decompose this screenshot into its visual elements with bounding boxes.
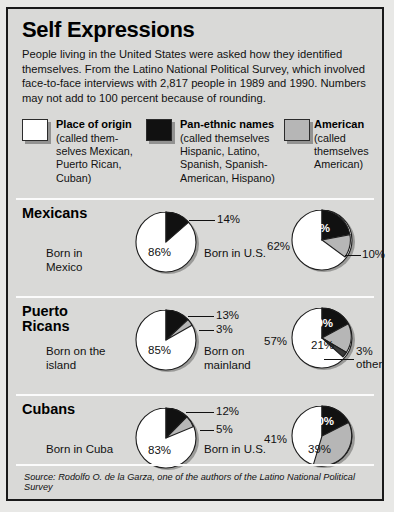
divider — [16, 464, 374, 466]
pie-caption: Born on the island — [46, 344, 116, 372]
white-swatch-icon — [22, 119, 48, 141]
pie-chart-cubans-born-in-cuba — [134, 406, 198, 470]
pie-chart-puerto-ricans-born-on-mainland — [290, 306, 354, 370]
leader-line — [345, 255, 361, 256]
intro-paragraph: People living in the United States were … — [22, 47, 372, 105]
infographic-body: Self Expressions People living in the Un… — [8, 9, 382, 499]
slice-value-gray: 21% — [311, 339, 334, 351]
group-title: Puerto Ricans — [22, 304, 92, 334]
slice-value-gray: 39% — [308, 443, 331, 455]
page-title: Self Expressions — [22, 17, 195, 43]
group-title: Mexicans — [22, 206, 87, 221]
divider — [16, 296, 374, 298]
pie-caption: Born in Cuba — [46, 442, 116, 456]
slice-value-black: 14% — [217, 213, 240, 225]
leader-line — [186, 412, 214, 413]
leader-line — [324, 359, 354, 360]
slice-value-gray: 5% — [216, 423, 233, 435]
legend-heading: Pan-ethnic names — [180, 118, 274, 130]
slice-value-white: 83% — [148, 444, 171, 456]
legend-item-american: American (called themselves American) — [284, 119, 376, 141]
slice-value-other: 3% other — [356, 345, 386, 371]
legend: Place of origin (called them-selves Mexi… — [22, 119, 374, 197]
slice-value-white: 86% — [148, 246, 171, 258]
group-title: Cubans — [22, 402, 75, 417]
black-swatch-icon — [146, 119, 172, 141]
infographic-page: Self Expressions People living in the Un… — [0, 0, 394, 512]
gray-swatch-icon — [284, 119, 310, 141]
legend-item-place-of-origin: Place of origin (called them-selves Mexi… — [22, 119, 140, 141]
slice-value-white: 41% — [264, 433, 287, 445]
group-row-mexicans: Mexicans Born in Mexico Born in U.S. 86%… — [8, 202, 382, 294]
slice-value-black: 20% — [311, 415, 334, 427]
leader-line — [199, 330, 214, 331]
divider — [16, 198, 374, 200]
slice-value-white: 85% — [148, 344, 171, 356]
legend-item-pan-ethnic-names: Pan-ethnic names (called themselves Hisp… — [146, 119, 278, 141]
slice-value-black: 19% — [310, 317, 333, 329]
pie-chart-cubans-born-in-us — [290, 404, 354, 468]
slice-value-black: 13% — [216, 309, 239, 321]
legend-heading: Place of origin — [56, 118, 132, 130]
divider — [16, 394, 374, 396]
leader-line — [189, 220, 215, 221]
leader-line — [188, 316, 214, 317]
legend-detail: (called them-selves Mexican, Puerto Rica… — [56, 132, 148, 185]
pie-chart-mexicans-born-in-us — [290, 208, 354, 272]
legend-detail: (called themselves American) — [314, 132, 386, 172]
infographic-frame: Self Expressions People living in the Un… — [6, 7, 384, 501]
slice-value-black: 28% — [307, 222, 330, 234]
pie-caption: Born on mainland — [204, 344, 266, 372]
pie-caption: Born in Mexico — [46, 246, 116, 274]
leader-line — [200, 430, 214, 431]
slice-value-white: 57% — [264, 335, 287, 347]
source-note: Source: Rodolfo O. de la Garza, one of t… — [24, 472, 382, 492]
slice-value-black: 12% — [216, 405, 239, 417]
legend-heading: American — [314, 118, 364, 130]
pie-caption: Born in U.S. — [204, 442, 266, 456]
pie-caption: Born in U.S. — [204, 246, 266, 260]
pie-chart-puerto-ricans-born-on-island — [134, 308, 198, 372]
slice-value-white: 62% — [267, 240, 290, 252]
group-row-puerto-ricans: Puerto Ricans Born on the island Born on… — [8, 300, 382, 392]
slice-value-gray: 10% — [362, 248, 385, 260]
slice-value-gray: 3% — [216, 323, 233, 335]
